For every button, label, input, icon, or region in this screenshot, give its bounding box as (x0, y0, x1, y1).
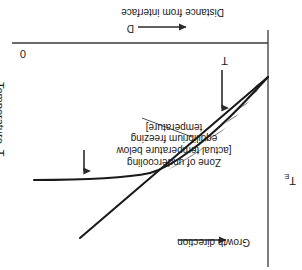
equilibrium-temperature-symbol: T (289, 175, 296, 187)
distance-symbol-label: D (127, 22, 134, 34)
undercooling-annotation-line-2: [actual temperature below (108, 144, 240, 156)
equilibrium-temperature-subscript: E (284, 172, 289, 181)
y-axis-label: Temperature, T (0, 82, 6, 156)
figure-root: 0 TE T Zone of undercooling [actual temp… (0, 0, 302, 270)
origin-label: 0 (20, 47, 26, 60)
undercooling-annotation: Zone of undercooling [actual temperature… (108, 121, 240, 168)
growth-direction-label: Growth direction (177, 236, 250, 248)
actual-temperature-label: T (221, 54, 228, 67)
undercooling-annotation-line-3: equilibrium freezing (108, 133, 240, 145)
rotated-diagram-layer: 0 TE T Zone of undercooling [actual temp… (0, 0, 302, 270)
x-axis-label: Distance from interface (121, 6, 224, 18)
undercooling-annotation-line-1: Zone of undercooling (108, 156, 240, 168)
equilibrium-temperature-label: TE (284, 171, 296, 187)
undercooling-annotation-line-4: temperature] (108, 121, 240, 133)
